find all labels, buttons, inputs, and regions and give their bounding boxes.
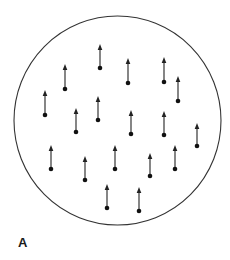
arrowhead-icon	[162, 111, 167, 117]
arrowhead-icon	[49, 145, 54, 151]
dipole-arrow	[98, 44, 103, 70]
dipole-dot	[74, 130, 79, 135]
dipole-dot	[129, 132, 134, 137]
dipole-group	[43, 44, 200, 213]
dipole-arrow	[63, 64, 68, 91]
dipole-dot	[148, 174, 153, 179]
arrowhead-icon	[96, 96, 101, 102]
dipole-arrow	[49, 145, 54, 171]
arrowhead-icon	[126, 58, 131, 64]
dipole-arrow	[176, 76, 181, 103]
arrowhead-icon	[195, 123, 200, 129]
dipole-diagram	[0, 0, 230, 260]
dipole-arrow	[113, 145, 118, 171]
dipole-arrow	[43, 90, 48, 117]
arrowhead-icon	[137, 187, 142, 193]
dipole-dot	[49, 167, 54, 172]
dipole-arrow	[162, 111, 167, 137]
dipole-dot	[43, 113, 48, 118]
dipole-dot	[162, 80, 167, 85]
arrowhead-icon	[176, 76, 181, 82]
dipole-dot	[96, 118, 101, 123]
dipole-dot	[98, 66, 103, 71]
dipole-dot	[83, 178, 88, 183]
arrowhead-icon	[148, 153, 153, 159]
dipole-dot	[63, 87, 68, 92]
dipole-arrow	[173, 145, 178, 171]
arrowhead-icon	[74, 108, 79, 114]
dipole-arrow	[195, 123, 200, 148]
dipole-dot	[105, 206, 110, 211]
dipole-dot	[195, 144, 200, 149]
dipole-arrow	[74, 108, 79, 134]
arrowhead-icon	[63, 64, 68, 70]
dipole-dot	[173, 167, 178, 172]
arrowhead-icon	[83, 156, 88, 162]
panel-label: A	[18, 236, 27, 250]
dipole-arrow	[148, 153, 153, 178]
arrowhead-icon	[113, 145, 118, 151]
arrowhead-icon	[173, 145, 178, 151]
dipole-arrow	[129, 110, 134, 136]
dipole-dot	[137, 209, 142, 214]
arrowhead-icon	[129, 110, 134, 116]
dipole-arrow	[137, 187, 142, 213]
dipole-dot	[126, 81, 131, 86]
dipole-arrow	[96, 96, 101, 122]
dipole-dot	[176, 99, 181, 104]
dipole-dot	[113, 167, 118, 172]
dipole-arrow	[105, 184, 110, 210]
arrowhead-icon	[162, 57, 167, 63]
dipole-arrow	[126, 58, 131, 85]
dipole-dot	[162, 133, 167, 138]
dipole-arrow	[83, 156, 88, 182]
arrowhead-icon	[43, 90, 48, 96]
arrowhead-icon	[98, 44, 103, 50]
dipole-arrow	[162, 57, 167, 84]
boundary-circle	[14, 16, 221, 225]
arrowhead-icon	[105, 184, 110, 190]
